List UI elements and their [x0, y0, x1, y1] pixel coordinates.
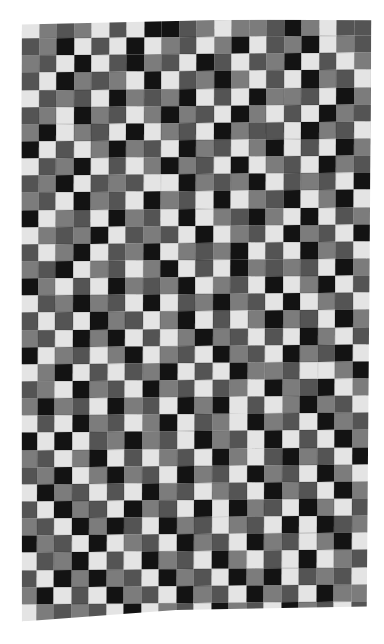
quilt-square — [54, 484, 72, 501]
quilt-square — [38, 175, 56, 192]
quilt-square — [353, 258, 371, 275]
quilt-square — [336, 190, 354, 207]
quilt-square — [36, 604, 54, 621]
quilt-square — [265, 294, 283, 311]
quilt-square — [91, 72, 109, 89]
quilt-square — [230, 294, 248, 311]
quilt-square — [37, 347, 55, 364]
quilt-square — [196, 123, 214, 140]
quilt-square — [230, 208, 248, 225]
quilt-square — [106, 552, 124, 569]
quilt-square — [74, 21, 92, 38]
quilt-square — [178, 260, 196, 277]
quilt-square — [38, 141, 56, 158]
quilt-square — [247, 345, 265, 362]
quilt-square — [36, 570, 54, 587]
quilt-square — [108, 278, 126, 295]
quilt-square — [300, 362, 318, 379]
quilt-square — [247, 362, 265, 379]
quilt-square — [89, 535, 107, 552]
quilt-square — [195, 363, 213, 380]
quilt-square — [143, 140, 161, 157]
quilt-square — [161, 123, 179, 140]
quilt-square — [160, 397, 178, 414]
quilt-square — [196, 191, 214, 208]
quilt-square — [177, 363, 195, 380]
quilt-square — [143, 226, 161, 243]
quilt-square — [231, 157, 249, 174]
quilt-square — [247, 397, 265, 414]
quilt-square — [71, 552, 89, 569]
quilt-square — [124, 466, 142, 483]
quilt-square — [106, 569, 124, 586]
quilt-square — [21, 107, 39, 124]
quilt-square — [90, 312, 108, 329]
quilt-square — [299, 430, 317, 447]
quilt-square — [106, 501, 124, 518]
quilt-square — [177, 380, 195, 397]
quilt-square — [19, 587, 37, 604]
quilt-square — [178, 174, 196, 191]
quilt-square — [354, 53, 372, 70]
quilt-square — [125, 346, 143, 363]
quilt-square — [178, 277, 196, 294]
quilt-square — [334, 533, 352, 550]
quilt-square — [176, 551, 194, 568]
quilt-square — [91, 141, 109, 158]
quilt-square — [352, 310, 370, 327]
quilt-square — [334, 567, 352, 584]
quilt-square — [264, 551, 282, 568]
quilt-square — [74, 72, 92, 89]
quilt-square — [282, 465, 300, 482]
quilt-square — [19, 536, 37, 553]
quilt-square — [178, 123, 196, 140]
quilt-square — [36, 501, 54, 518]
quilt-square — [353, 207, 371, 224]
quilt-square — [74, 107, 92, 124]
quilt-square — [317, 379, 335, 396]
quilt-square — [318, 207, 336, 224]
quilt-square — [53, 604, 71, 621]
quilt-square — [125, 329, 143, 346]
quilt-square — [248, 277, 266, 294]
quilt-square — [55, 278, 73, 295]
quilt-square — [21, 21, 39, 38]
quilt-square — [54, 518, 72, 535]
quilt-square — [336, 19, 354, 36]
quilt-square — [55, 312, 73, 329]
quilt-square — [231, 71, 249, 88]
quilt-square — [194, 586, 212, 603]
quilt-square — [106, 535, 124, 552]
quilt-square — [317, 396, 335, 413]
quilt-square — [318, 139, 336, 156]
quilt-square — [90, 278, 108, 295]
quilt-square — [195, 260, 213, 277]
quilt-square — [283, 259, 301, 276]
quilt-square — [159, 483, 177, 500]
quilt-square — [264, 499, 282, 516]
quilt-square — [301, 105, 319, 122]
quilt-square — [39, 21, 57, 38]
quilt-square — [195, 311, 213, 328]
quilt-square — [284, 70, 302, 87]
quilt-square — [353, 224, 371, 241]
quilt-square — [90, 364, 108, 381]
quilt-square — [19, 553, 37, 570]
quilt-square — [248, 139, 266, 156]
quilt-square — [19, 467, 37, 484]
quilt-square — [265, 311, 283, 328]
quilt-square — [300, 327, 318, 344]
quilt-square — [352, 327, 370, 344]
quilt-square — [246, 517, 264, 534]
quilt-square — [335, 310, 353, 327]
quilt-square — [231, 191, 249, 208]
quilt-square — [107, 449, 125, 466]
quilt-square — [266, 156, 284, 173]
quilt-square — [73, 244, 91, 261]
quilt-square — [194, 414, 212, 431]
quilt-square — [39, 38, 57, 55]
quilt-square — [19, 570, 37, 587]
quilt-square — [159, 552, 177, 569]
quilt-square — [248, 157, 266, 174]
quilt-square — [19, 484, 37, 501]
